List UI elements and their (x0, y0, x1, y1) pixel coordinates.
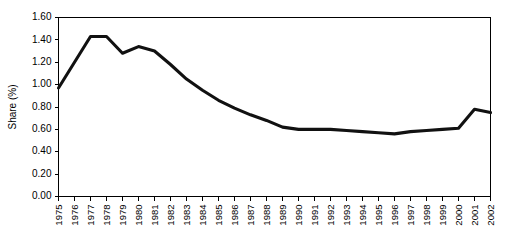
x-tick-label: 1977 (85, 205, 96, 226)
x-axis-ticks (59, 197, 491, 201)
x-axis-tick-labels: 1975197619771978197919801981198219831984… (53, 205, 496, 226)
x-tick-label: 1997 (405, 205, 416, 226)
x-tick-label: 1991 (309, 205, 320, 226)
y-tick-label: 0.20 (32, 168, 52, 179)
line-chart: 0.000.200.400.600.801.001.201.401.60 197… (0, 0, 506, 240)
x-tick-label: 1985 (213, 205, 224, 226)
x-tick-label: 1989 (277, 205, 288, 226)
x-tick-label: 1994 (357, 205, 368, 226)
chart-container: 0.000.200.400.600.801.001.201.401.60 197… (0, 0, 506, 240)
x-tick-label: 1976 (69, 205, 80, 226)
x-tick-label: 1981 (149, 205, 160, 226)
x-tick-label: 1998 (421, 205, 432, 226)
x-tick-label: 1986 (229, 205, 240, 226)
x-tick-label: 1988 (261, 205, 272, 226)
y-tick-label: 1.20 (32, 56, 52, 67)
x-tick-label: 1984 (197, 205, 208, 226)
x-tick-label: 2002 (485, 205, 496, 226)
x-tick-label: 1993 (341, 205, 352, 226)
x-tick-label: 1975 (53, 205, 64, 226)
x-tick-label: 1995 (373, 205, 384, 226)
x-tick-label: 1992 (325, 205, 336, 226)
y-axis-title: Share (%) (7, 84, 18, 129)
x-tick-label: 2001 (469, 205, 480, 226)
y-tick-label: 0.80 (32, 101, 52, 112)
x-tick-label: 1987 (245, 205, 256, 226)
x-tick-label: 1982 (165, 205, 176, 226)
y-axis-tick-labels: 0.000.200.400.600.801.001.201.401.60 (32, 11, 52, 201)
x-tick-label: 1999 (437, 205, 448, 226)
x-tick-label: 1978 (101, 205, 112, 226)
x-tick-label: 1980 (133, 205, 144, 226)
y-tick-label: 1.00 (32, 78, 52, 89)
y-axis-ticks (55, 18, 59, 197)
y-tick-label: 0.40 (32, 145, 52, 156)
plot-border (59, 18, 491, 197)
x-tick-label: 1983 (181, 205, 192, 226)
plot-area-frame (59, 18, 491, 197)
x-tick-label: 1979 (117, 205, 128, 226)
x-tick-label: 1990 (293, 205, 304, 226)
y-tick-label: 1.40 (32, 34, 52, 45)
x-tick-label: 1996 (389, 205, 400, 226)
y-tick-label: 0.60 (32, 123, 52, 134)
y-tick-label: 0.00 (32, 190, 52, 201)
y-tick-label: 1.60 (32, 11, 52, 22)
x-tick-label: 2000 (453, 205, 464, 226)
